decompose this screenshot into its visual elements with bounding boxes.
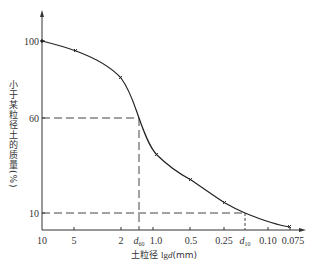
x-tick-label-0-25: 0.25 [215, 235, 233, 246]
x-tick-label-5: 5 [72, 235, 77, 246]
x-axis-arrow-icon [299, 228, 306, 232]
y-tick-label-10: 10 [29, 208, 39, 219]
y-tick-label-60: 60 [29, 113, 39, 124]
x-tick-label-2: 2 [119, 235, 124, 246]
x-axis-title: 土粒径 lgd(mm) [131, 249, 197, 260]
y-axis-title: 小于某粒径土的质量(%) [8, 80, 20, 200]
x-tick-label-0-10: 0.10 [259, 235, 277, 246]
x-tick-label-d60: d60 [134, 235, 145, 247]
grading-curve-chart: 100 60 10 10 5 2 d60 1.0 0.5 0.25 d10 0.… [0, 0, 320, 271]
d10-guide-lines [42, 213, 245, 230]
x-tick-label-0-5: 0.5 [185, 235, 198, 246]
y-tick-label-100: 100 [24, 36, 39, 47]
data-point-markers [41, 40, 291, 228]
x-tick-label-1-0: 1.0 [150, 235, 163, 246]
grading-curve [42, 41, 290, 227]
x-tick-label-10: 10 [37, 235, 47, 246]
x-tick-label-0-075: 0.075 [282, 235, 305, 246]
y-axis-arrow-icon [40, 10, 44, 17]
x-tick-label-d10: d10 [240, 235, 251, 247]
